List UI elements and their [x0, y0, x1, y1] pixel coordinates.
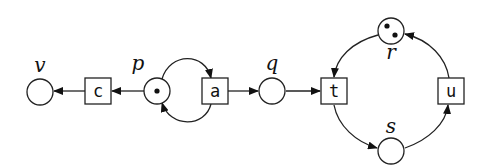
place-v: v	[27, 53, 53, 105]
token	[392, 32, 397, 37]
transition-label-a: a	[210, 81, 220, 101]
arc-u-r	[405, 34, 449, 78]
transition-c: c	[85, 78, 111, 104]
place-label-p: p	[132, 51, 145, 75]
place-label-q: q	[266, 51, 279, 75]
transition-t: t	[321, 78, 347, 104]
petri-net-diagram: v p q r s c a t u	[0, 0, 486, 166]
place-label-s: s	[386, 114, 396, 138]
arc-p-a	[162, 59, 211, 79]
transition-label-t: t	[329, 81, 339, 101]
token	[384, 23, 389, 28]
transition-a: a	[202, 78, 228, 104]
place-p: p	[132, 51, 170, 104]
token	[154, 88, 159, 93]
place-r: r	[378, 18, 404, 64]
arc-t-s	[334, 105, 377, 148]
transition-u: u	[438, 78, 464, 104]
place-label-v: v	[34, 53, 46, 77]
arc-r-t	[334, 35, 378, 77]
arc-a-p	[162, 103, 211, 122]
place-q: q	[259, 51, 285, 104]
transition-label-c: c	[93, 81, 103, 101]
arc-s-u	[405, 105, 448, 148]
place-label-r: r	[386, 40, 397, 64]
transition-label-u: u	[446, 81, 456, 101]
place-s: s	[378, 114, 404, 164]
